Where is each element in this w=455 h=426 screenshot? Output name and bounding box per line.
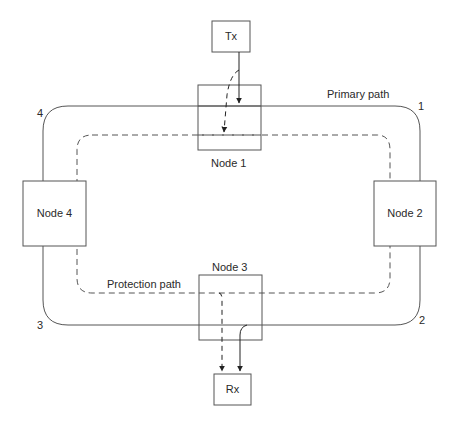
rx-label: Rx — [214, 374, 251, 405]
node3-label: Node 3 — [212, 262, 247, 273]
protection-path-label: Protection path — [107, 279, 181, 290]
node3-box — [199, 275, 262, 340]
corner-label-4: 4 — [37, 108, 43, 119]
corner-label-3: 3 — [37, 320, 43, 331]
rx-primary-arrow — [240, 325, 247, 371]
primary-path-ring — [43, 106, 420, 325]
corner-label-2: 2 — [419, 315, 425, 326]
tx-label: Tx — [212, 21, 250, 52]
rx-protection-arrow — [219, 293, 222, 371]
primary-path-label: Primary path — [327, 89, 389, 100]
node2-label: Node 2 — [374, 181, 436, 246]
corner-label-1: 1 — [418, 101, 424, 112]
node1-label: Node 1 — [211, 158, 246, 169]
node1-box — [198, 85, 261, 150]
node4-label: Node 4 — [23, 181, 86, 246]
tx-protection-arrow — [224, 70, 239, 132]
